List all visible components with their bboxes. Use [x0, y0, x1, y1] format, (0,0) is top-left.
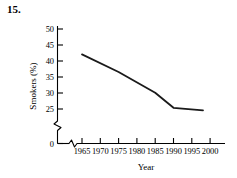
figure-container: 15. 50 45 40 35 30 25 0	[0, 0, 237, 178]
x-tick-label-1990: 1990	[165, 147, 182, 156]
y-tick-label-30: 30	[46, 89, 54, 98]
y-axis-title: Smokers (%)	[28, 62, 38, 109]
x-tick-label-1970: 1970	[92, 147, 109, 156]
y-tick-label-45: 45	[46, 41, 54, 50]
x-axis-break-icon	[69, 140, 77, 147]
x-tick-label-1980: 1980	[129, 147, 146, 156]
y-tick-label-50: 50	[46, 25, 54, 34]
x-tick-label-1965: 1965	[74, 147, 91, 156]
y-tick-label-35: 35	[46, 73, 54, 82]
y-axis-break-icon	[54, 121, 61, 131]
x-tick-label-1995: 1995	[183, 147, 200, 156]
y-tick-label-25: 25	[46, 105, 54, 114]
data-series-line	[82, 54, 203, 110]
y-tick-label-40: 40	[46, 57, 54, 66]
x-axis-title: Year	[138, 162, 155, 172]
y-tick-label-0: 0	[50, 140, 54, 149]
x-tick-label-1975: 1975	[110, 147, 127, 156]
x-tick-label-2000: 2000	[202, 147, 219, 156]
line-chart: 50 45 40 35 30 25 0 1965 1970 1975 1980 …	[0, 0, 237, 178]
x-tick-marks	[82, 138, 210, 144]
x-tick-label-1985: 1985	[147, 147, 164, 156]
